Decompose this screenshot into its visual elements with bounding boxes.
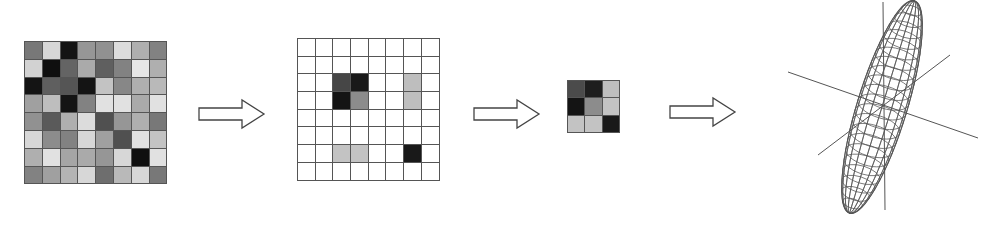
ellipsoid-3d-plot: [0, 0, 999, 227]
ellipsoid-wireframe: [826, 0, 939, 220]
